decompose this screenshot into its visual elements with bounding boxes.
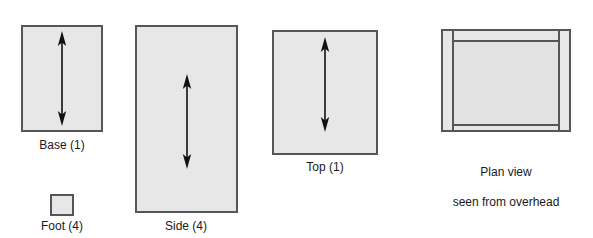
plan-rail-right	[558, 31, 560, 130]
top-dimension-arrow	[318, 37, 332, 132]
plan-rail-left	[452, 31, 454, 130]
plan-rail-top	[452, 40, 560, 42]
parts-diagram: Base (1) Foot (4) Side (4) Top (1) Plan …	[0, 0, 593, 238]
base-dimension-arrow	[55, 31, 69, 126]
plan-rail-bottom	[452, 124, 560, 126]
plan-view-caption-line2: seen from overhead	[436, 195, 576, 210]
plan-inner-field	[454, 42, 560, 126]
plan-view-drawing	[441, 29, 571, 132]
plan-view-caption-line1: Plan view	[436, 165, 576, 180]
side-dimension-arrow	[180, 74, 194, 169]
part-label-side: Side (4)	[136, 219, 236, 234]
part-label-top: Top (1)	[275, 160, 375, 175]
part-label-foot: Foot (4)	[12, 219, 112, 234]
plan-view-caption: Plan view seen from overhead	[436, 150, 576, 225]
part-label-base: Base (1)	[12, 138, 112, 153]
part-shape-foot	[50, 194, 74, 216]
